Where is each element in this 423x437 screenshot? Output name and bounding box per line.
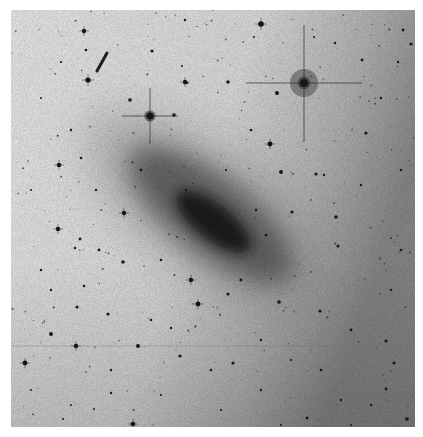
sky-field: [11, 10, 415, 427]
galaxy-plate-image: [11, 10, 415, 427]
